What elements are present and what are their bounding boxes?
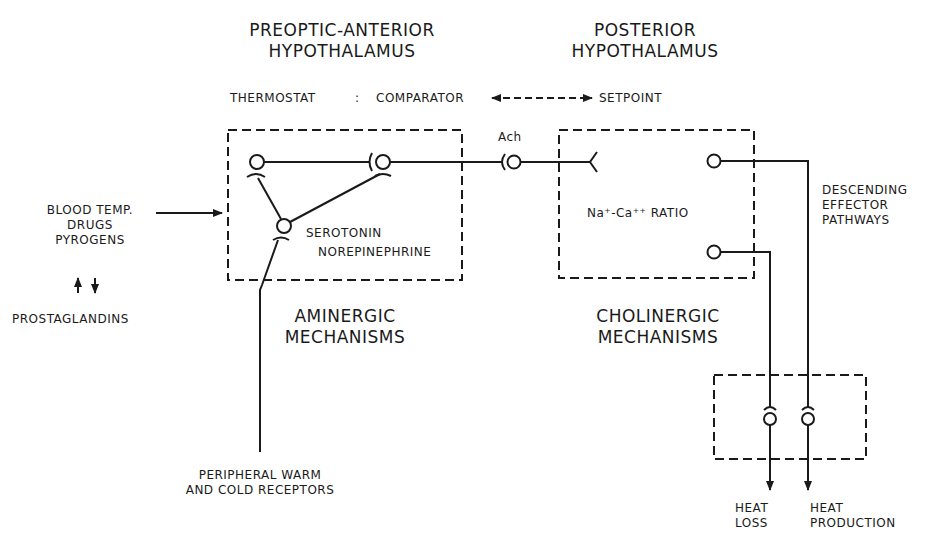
heat-loss-line2: LOSS [735,516,768,531]
effector-line2: EFFECTOR [822,198,907,213]
norepinephrine-label: NOREPINEPHRINE [318,245,431,260]
input-blood-temp: BLOOD TEMP. [20,203,160,218]
receptors-line1: PERIPHERAL WARM [160,468,360,483]
thermostat-colon: : [355,91,360,106]
input-pyrogens: PYROGENS [20,233,160,248]
effector-pathways-label: DESCENDING EFFECTOR PATHWAYS [822,183,907,228]
heat-loss-label: HEAT LOSS [735,501,768,531]
serotonin-label: SEROTONIN [306,226,382,241]
neuron-3-icon [277,219,291,233]
effector-line3: PATHWAYS [822,213,907,228]
heat-production-line1: HEAT [810,501,896,516]
heat-loss-line1: HEAT [735,501,768,516]
cholinergic-caption-line2: MECHANISMS [568,327,748,348]
preoptic-title-line1: PREOPTIC-ANTERIOR [232,20,452,41]
neuron-2-icon [376,155,390,169]
receptors-label: PERIPHERAL WARM AND COLD RECEPTORS [160,468,360,498]
ach-label: Ach [498,130,522,145]
output-neuron-upper-icon [708,155,721,168]
preoptic-title: PREOPTIC-ANTERIOR HYPOTHALAMUS [232,20,452,63]
effector-box [714,375,866,459]
output-neuron-lower-icon [708,246,721,259]
preoptic-title-line2: HYPOTHALAMUS [232,41,452,62]
effector-line1: DESCENDING [822,183,907,198]
cholinergic-caption-line1: CHOLINERGIC [568,306,748,327]
heat-production-pathway [720,161,808,408]
posterior-title-line1: POSTERIOR [560,20,730,41]
receptors-line2: AND COLD RECEPTORS [160,483,360,498]
input-drugs: DRUGS [20,218,160,233]
aminergic-caption: AMINERGIC MECHANISMS [255,306,435,349]
posterior-title-line2: HYPOTHALAMUS [560,41,730,62]
thermostat-label: THERMOSTAT [230,91,316,106]
neuron-1-icon [250,155,264,169]
diagram-canvas: setpoint dashed arrow --> [0,0,944,544]
prostaglandins-label: PROSTAGLANDINS [12,312,129,327]
heat-production-synapse-icon [802,413,814,425]
comparator-label: COMPARATOR [376,91,464,106]
aminergic-caption-line2: MECHANISMS [255,327,435,348]
posterior-title: POSTERIOR HYPOTHALAMUS [560,20,730,63]
cholinergic-box [559,130,754,278]
heat-production-label: HEAT PRODUCTION [810,501,896,531]
na-ca-ratio-label: Na⁺-Ca⁺⁺ RATIO [587,206,689,221]
heat-production-line2: PRODUCTION [810,516,896,531]
setpoint-label: SETPOINT [599,91,662,106]
fork-terminal-icon [590,152,597,172]
ach-synapse-icon [508,156,521,169]
cholinergic-caption: CHOLINERGIC MECHANISMS [568,306,748,349]
aminergic-caption-line1: AMINERGIC [255,306,435,327]
heat-loss-synapse-icon [764,413,776,425]
input-list: BLOOD TEMP. DRUGS PYROGENS [20,203,160,248]
